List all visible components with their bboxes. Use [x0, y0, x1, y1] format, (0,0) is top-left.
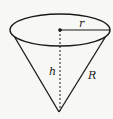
- slant-height-label: R: [87, 69, 96, 82]
- cone-diagram: r h R: [0, 0, 113, 119]
- height-label: h: [49, 65, 56, 78]
- cone-slant-edge: [59, 36, 106, 112]
- center-dot: [58, 28, 62, 32]
- radius-label: r: [79, 17, 85, 30]
